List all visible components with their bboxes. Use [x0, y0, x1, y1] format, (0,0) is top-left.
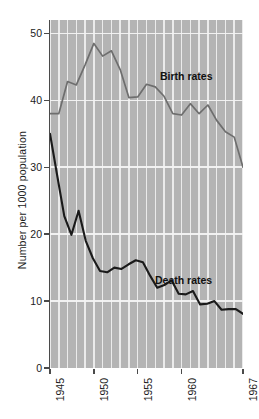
x-tick-label: 1960 — [186, 378, 198, 401]
y-tick — [44, 33, 50, 34]
y-tick-label: 0 — [0, 362, 42, 374]
y-tick — [44, 233, 50, 234]
x-tick — [137, 369, 138, 374]
series-label-birth-rates: Birth rates — [160, 70, 213, 82]
x-tick — [181, 369, 182, 374]
x-tick-label: 1945 — [54, 378, 66, 401]
x-tick-label: 1955 — [142, 378, 154, 401]
x-tick — [93, 369, 94, 374]
series-line-birth-rates — [50, 43, 243, 167]
y-tick-label: 20 — [0, 228, 42, 240]
y-tick-label: 10 — [0, 295, 42, 307]
x-tick-label: 1950 — [98, 378, 110, 401]
x-tick-label: 1967 — [247, 378, 259, 401]
y-tick-label: 30 — [0, 161, 42, 173]
x-tick — [242, 369, 243, 374]
birth-death-rates-chart: Number per 1000 population 01020304050 1… — [0, 0, 259, 419]
series-label-death-rates: Death rates — [155, 274, 212, 286]
y-tick — [44, 167, 50, 168]
series-lines — [50, 20, 243, 368]
y-tick — [44, 100, 50, 101]
y-tick — [44, 300, 50, 301]
y-axis-line — [49, 20, 50, 369]
plot-area — [50, 20, 243, 368]
y-tick-label: 40 — [0, 94, 42, 106]
series-line-death-rates — [50, 134, 243, 314]
x-tick — [49, 369, 50, 374]
y-tick-label: 50 — [0, 27, 42, 39]
y-axis-title: Number per 1000 population — [16, 110, 28, 290]
